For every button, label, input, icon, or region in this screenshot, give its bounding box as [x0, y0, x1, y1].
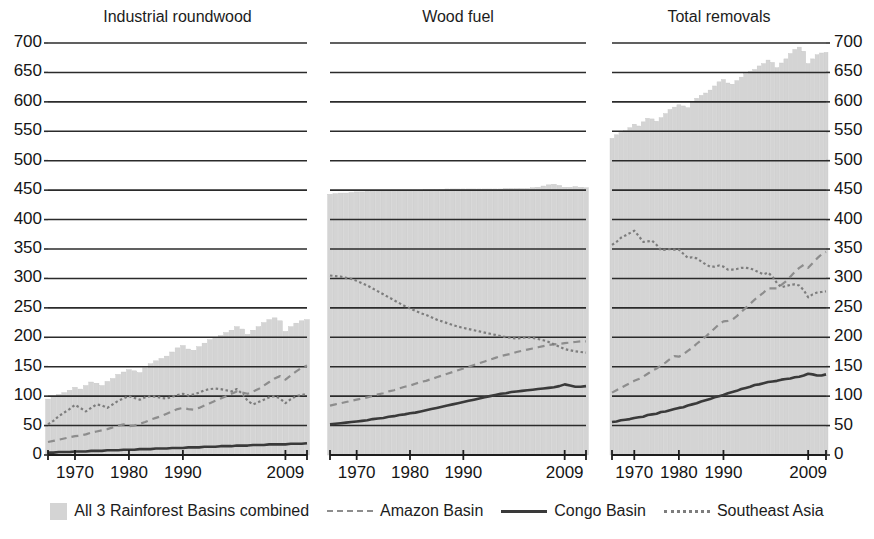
- legend-label: All 3 Rainforest Basins combined: [74, 502, 309, 520]
- legend-item-congo: Congo Basin: [501, 502, 646, 520]
- x-axis-tick-label: 1980: [382, 464, 438, 481]
- y-axis-tick-label-left: 150: [0, 357, 42, 374]
- y-axis-tick-label-left: 450: [0, 180, 42, 197]
- legend-item-all-basins: All 3 Rainforest Basins combined: [50, 502, 309, 520]
- y-axis-tick-label-left: 0: [0, 445, 42, 462]
- y-axis-tick-label-right: 450: [834, 180, 874, 197]
- x-axis-tick-label: 1980: [101, 464, 157, 481]
- y-axis-tick-label-left: 500: [0, 151, 42, 168]
- solid-line-swatch-icon: [501, 510, 547, 513]
- x-axis-tick-label: 2009: [537, 464, 593, 481]
- dashed-line-swatch-icon: [327, 510, 373, 512]
- x-axis-tick-label: 2009: [257, 464, 313, 481]
- x-axis-tick-label: 1970: [47, 464, 103, 481]
- y-axis-tick-label-right: 0: [834, 445, 874, 462]
- y-axis-tick-label-right: 200: [834, 327, 874, 344]
- y-axis-tick-label-left: 100: [0, 386, 42, 403]
- y-axis-tick-label-left: 600: [0, 92, 42, 109]
- y-axis-tick-label-left: 550: [0, 121, 42, 138]
- y-axis-tick-label-right: 500: [834, 151, 874, 168]
- panel-title: Total removals: [612, 8, 826, 26]
- panel-title: Wood fuel: [330, 8, 586, 26]
- y-axis-tick-label-right: 100: [834, 386, 874, 403]
- chart-canvas: [0, 0, 874, 539]
- x-axis-tick-label: 2009: [780, 464, 836, 481]
- x-axis-tick-label: 1990: [695, 464, 751, 481]
- panel-title: Industrial roundwood: [48, 8, 307, 26]
- chart-figure: Industrial roundwood1970198019902009Wood…: [0, 0, 874, 539]
- y-axis-tick-label-left: 200: [0, 327, 42, 344]
- legend-item-southeast-asia: Southeast Asia: [664, 502, 824, 520]
- chart-legend: All 3 Rainforest Basins combined Amazon …: [0, 495, 874, 527]
- x-axis-tick-label: 1990: [155, 464, 211, 481]
- y-axis-tick-label-left: 700: [0, 33, 42, 50]
- legend-label: Congo Basin: [554, 502, 646, 520]
- y-axis-tick-label-right: 150: [834, 357, 874, 374]
- y-axis-tick-label-left: 350: [0, 239, 42, 256]
- dotted-line-swatch-icon: [664, 510, 710, 513]
- y-axis-tick-label-right: 300: [834, 268, 874, 285]
- y-axis-tick-label-right: 400: [834, 210, 874, 227]
- y-axis-tick-label-left: 300: [0, 268, 42, 285]
- y-axis-tick-label-right: 550: [834, 121, 874, 138]
- y-axis-tick-label-left: 650: [0, 62, 42, 79]
- x-axis-tick-label: 1970: [329, 464, 385, 481]
- y-axis-tick-label-right: 650: [834, 62, 874, 79]
- y-axis-tick-label-right: 700: [834, 33, 874, 50]
- y-axis-tick-label-left: 400: [0, 210, 42, 227]
- y-axis-tick-label-right: 350: [834, 239, 874, 256]
- x-axis-tick-label: 1990: [435, 464, 491, 481]
- legend-label: Southeast Asia: [717, 502, 824, 520]
- y-axis-tick-label-right: 600: [834, 92, 874, 109]
- y-axis-tick-label-right: 250: [834, 298, 874, 315]
- area-swatch-icon: [50, 503, 67, 520]
- y-axis-tick-label-right: 50: [834, 416, 874, 433]
- legend-item-amazon: Amazon Basin: [327, 502, 483, 520]
- legend-label: Amazon Basin: [380, 502, 483, 520]
- y-axis-tick-label-left: 250: [0, 298, 42, 315]
- y-axis-tick-label-left: 50: [0, 416, 42, 433]
